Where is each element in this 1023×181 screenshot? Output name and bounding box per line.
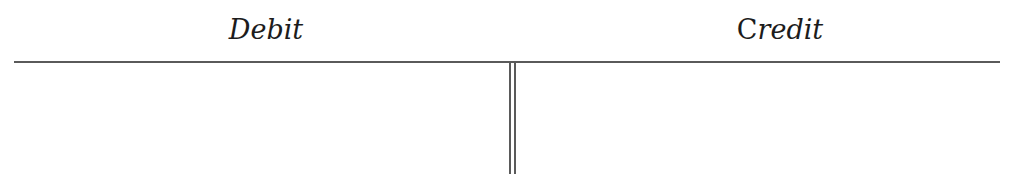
credit-entries-area <box>516 64 1000 174</box>
horizontal-rule <box>14 61 1000 63</box>
vertical-rule-left <box>509 62 511 174</box>
debit-label: Debit <box>229 14 303 45</box>
t-account-diagram: Debit Credit <box>0 0 1023 181</box>
credit-column-header: Credit <box>737 12 823 48</box>
credit-label-initial: C <box>737 14 758 45</box>
credit-label-rest: redit <box>758 14 824 45</box>
debit-entries-area <box>14 64 508 174</box>
debit-column-header: Debit <box>229 12 303 48</box>
